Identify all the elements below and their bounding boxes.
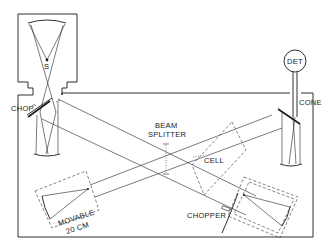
cone-label: CONE xyxy=(299,98,322,107)
beam-splitter: BEAM SPLITTER xyxy=(148,121,187,174)
source-label: S xyxy=(44,62,49,71)
source-point-icon xyxy=(46,59,49,62)
movable-mirror-assembly: MOVABLE 20 CM xyxy=(35,171,99,236)
chopper-label: CHOPPER xyxy=(187,211,226,220)
detector-assembly: DET CONE xyxy=(278,50,322,166)
beam-splitter-label-1: BEAM xyxy=(155,121,177,130)
optical-diagram: S CHOP BEAM SPLITTER xyxy=(0,0,330,250)
beam-paths xyxy=(42,99,282,215)
fixed-mirror-assembly xyxy=(228,177,298,238)
beam-splitter-label-2: SPLITTER xyxy=(148,130,187,139)
detector-label: DET xyxy=(287,57,303,66)
cell-label: CELL xyxy=(204,156,224,165)
source-housing: S xyxy=(18,14,77,112)
chop-label: CHOP xyxy=(11,104,34,113)
